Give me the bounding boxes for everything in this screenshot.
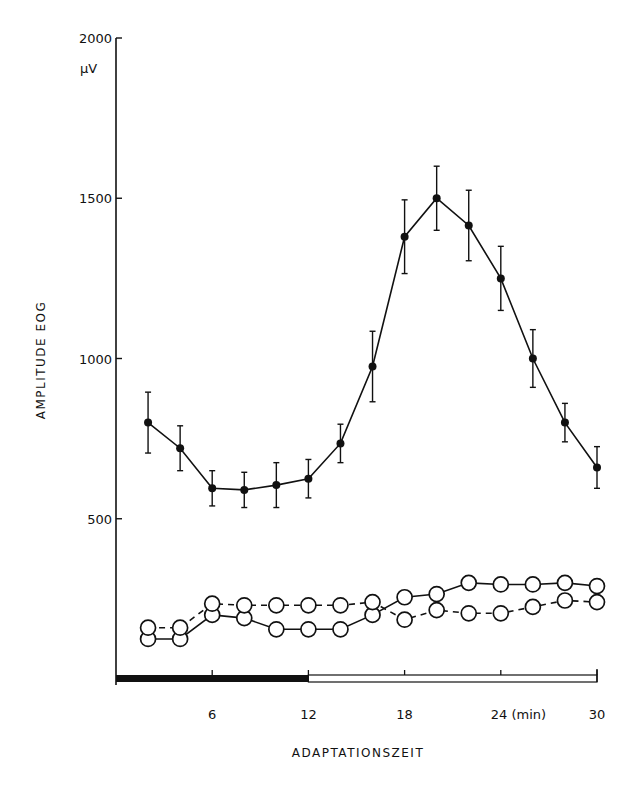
data-point-open (301, 622, 316, 637)
data-point-filled (336, 439, 344, 447)
data-point-filled (401, 233, 409, 241)
y-unit-label: µV (80, 61, 97, 76)
data-point-open (461, 606, 476, 621)
data-point-open (493, 606, 508, 621)
x-tick-label: 18 (396, 707, 413, 722)
y-tick-label: 1500 (79, 191, 112, 206)
y-axis-title: AMPLITUDE EOG (34, 301, 48, 420)
data-point-filled (529, 355, 537, 363)
data-point-open (173, 620, 188, 635)
data-point-filled (304, 475, 312, 483)
data-point-filled (176, 444, 184, 452)
axes: 5001000150020006121824 (min)30 (79, 31, 605, 722)
data-point-open (493, 577, 508, 592)
x-tick-label: 30 (589, 707, 606, 722)
data-point-open (557, 593, 572, 608)
x-tick-label: 6 (208, 707, 216, 722)
y-tick-label: 2000 (79, 31, 112, 46)
data-point-filled (369, 363, 377, 371)
light-phase-bar (308, 675, 597, 682)
data-point-open (429, 587, 444, 602)
data-point-filled (465, 221, 473, 229)
data-point-open (590, 579, 605, 594)
series-filled-circles-solid (144, 166, 601, 507)
x-axis-title: ADAPTATIONSZEIT (292, 746, 424, 760)
data-point-filled (561, 419, 569, 427)
data-point-open (269, 598, 284, 613)
data-point-filled (272, 481, 280, 489)
data-point-open (461, 575, 476, 590)
data-point-open (237, 598, 252, 613)
data-point-open (525, 599, 540, 614)
data-point-open (590, 595, 605, 610)
data-point-open (205, 596, 220, 611)
data-point-filled (433, 194, 441, 202)
x-tick-label: 12 (300, 707, 317, 722)
data-point-open (557, 575, 572, 590)
data-point-open (397, 590, 412, 605)
data-point-open (429, 603, 444, 618)
data-point-open (333, 598, 348, 613)
y-tick-label: 1000 (79, 352, 112, 367)
data-point-filled (208, 484, 216, 492)
dark-phase-bar (116, 675, 308, 682)
data-point-open (397, 612, 412, 627)
eog-chart: 5001000150020006121824 (min)30 µV AMPLIT… (0, 0, 638, 787)
data-point-open (269, 622, 284, 637)
series-layer (141, 166, 605, 646)
data-point-filled (144, 419, 152, 427)
data-point-filled (497, 274, 505, 282)
data-point-open (301, 598, 316, 613)
data-point-open (365, 595, 380, 610)
y-tick-label: 500 (87, 512, 112, 527)
data-point-filled (240, 486, 248, 494)
data-point-open (141, 620, 156, 635)
x-tick-label: 24 (min) (491, 707, 546, 722)
data-point-filled (593, 463, 601, 471)
data-point-open (525, 577, 540, 592)
data-point-open (333, 622, 348, 637)
